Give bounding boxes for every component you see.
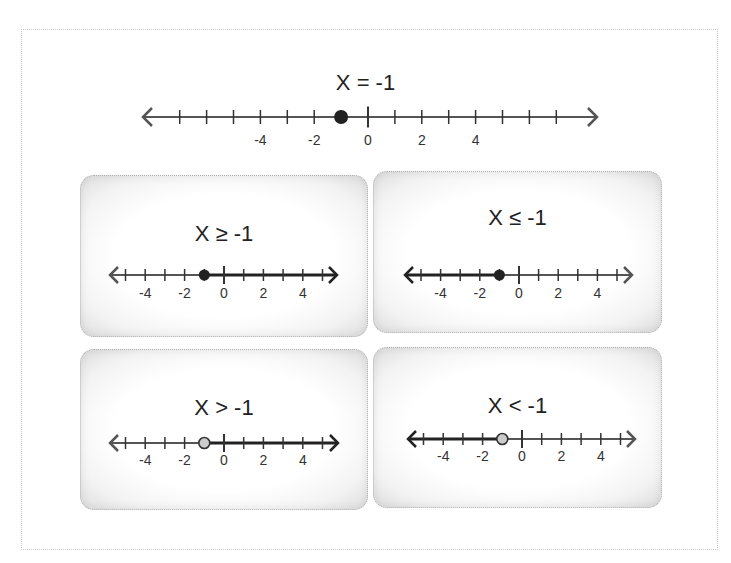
tick-label: -4 [434,285,447,301]
tick-label: 0 [518,448,526,464]
tick-label: 0 [515,285,523,301]
tick-label: 4 [299,285,307,301]
tick-label: 2 [554,285,562,301]
tick-label: -4 [437,448,450,464]
card-number-lines: -4-2024-4-2024-4-2024-4-2024 [0,0,731,563]
closed-point [494,270,505,281]
tick-label: -2 [476,448,489,464]
tick-label: 2 [260,285,268,301]
tick-label: 0 [220,285,228,301]
open-point [497,434,508,445]
number-line: -4-2024 [110,434,338,468]
tick-label: -2 [178,285,191,301]
tick-label: -2 [178,452,191,468]
open-point [199,438,210,449]
tick-label: 4 [594,285,602,301]
closed-point [199,270,210,281]
tick-label: -2 [474,285,487,301]
tick-label: 2 [558,448,566,464]
tick-label: 2 [260,452,268,468]
tick-label: -4 [139,285,152,301]
number-line: -4-2024 [110,266,337,301]
tick-label: 4 [597,448,605,464]
tick-label: 4 [299,452,307,468]
number-line: -4-2024 [408,430,635,464]
tick-label: 0 [220,452,228,468]
number-line: -4-2024 [405,266,632,301]
tick-label: -4 [139,452,152,468]
